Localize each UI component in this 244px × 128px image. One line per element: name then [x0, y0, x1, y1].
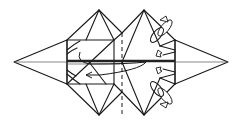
- upper-push-arrow: [156, 50, 162, 57]
- upper-rotate-arrow: [148, 16, 174, 44]
- lower-rotate-arrow: [148, 80, 174, 108]
- left-point-flap: [14, 40, 67, 84]
- lower-push-arrow: [156, 67, 162, 74]
- right-point-flap: [175, 40, 228, 84]
- left-square-section: [67, 10, 122, 115]
- fold-over-arrow: [79, 52, 146, 78]
- origami-diagram: [0, 0, 244, 128]
